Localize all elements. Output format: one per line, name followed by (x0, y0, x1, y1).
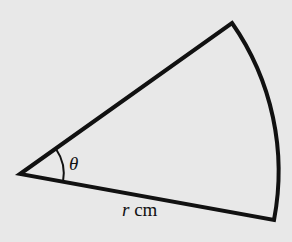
sector-outline (20, 23, 279, 220)
radius-variable: r (122, 199, 129, 220)
angle-arc (56, 149, 64, 182)
angle-label: θ (69, 153, 78, 175)
radius-unit: cm (134, 199, 157, 220)
radius-label: r cm (122, 199, 157, 221)
sector-diagram: θ r cm (0, 0, 292, 242)
